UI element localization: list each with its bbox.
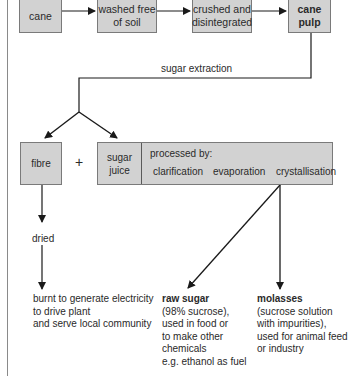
step-crushed: crushed anddisintegrated <box>192 0 252 33</box>
step-clarification: clarification <box>153 166 203 177</box>
step-cane-label: cane <box>29 10 52 23</box>
sugar-extraction-label: sugar extraction <box>161 62 232 75</box>
raw-sugar-heading: raw sugar <box>162 293 247 306</box>
step-cane-pulp: canepulp <box>288 0 331 33</box>
molasses-heading: molasses <box>257 293 348 306</box>
step-crushed-label: crushed anddisintegrated <box>192 3 252 29</box>
step-washed-label: washed freeof soil <box>98 3 155 29</box>
plus-sign: + <box>75 154 83 170</box>
step-cane-pulp-label: canepulp <box>298 3 322 29</box>
raw-sugar-text: raw sugar (98% sucrose), used in food or… <box>162 293 247 368</box>
process-divider <box>141 143 142 184</box>
dried-label: dried <box>32 232 54 245</box>
molasses-text: molasses (sucrose solution with impuriti… <box>257 293 348 356</box>
sugar-juice-process-box: sugarjuice processed by: clarification e… <box>97 142 333 185</box>
process-title: processed by: <box>150 148 212 159</box>
fibre-box: fibre <box>20 142 62 185</box>
step-crystallisation: crystallisation <box>276 166 336 177</box>
step-cane: cane <box>19 0 62 33</box>
step-evaporation: evaporation <box>213 166 265 177</box>
fibre-use-text: burnt to generate electricity to drive p… <box>33 293 154 331</box>
sugar-juice-label: sugarjuice <box>98 143 141 184</box>
fibre-label: fibre <box>31 157 50 170</box>
step-washed: washed freeof soil <box>97 0 157 33</box>
